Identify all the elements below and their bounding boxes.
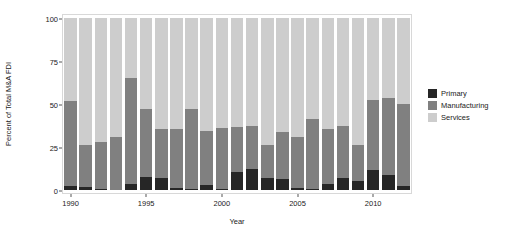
bar-1995 bbox=[140, 18, 153, 190]
bar-segment-primary bbox=[64, 186, 77, 190]
bar-segment-primary bbox=[140, 177, 153, 190]
bar-segment-services bbox=[125, 18, 138, 78]
bar-1992 bbox=[95, 18, 108, 190]
bar-segment-services bbox=[291, 18, 304, 137]
bar-segment-services bbox=[397, 18, 410, 104]
bar-segment-services bbox=[140, 18, 153, 109]
bar-segment-manufacturing bbox=[261, 145, 274, 178]
bar-1993 bbox=[110, 18, 123, 190]
bar-segment-services bbox=[306, 18, 319, 119]
x-tick-mark-1995 bbox=[146, 194, 147, 197]
bar-segment-manufacturing bbox=[155, 129, 168, 178]
bar-segment-manufacturing bbox=[276, 132, 289, 179]
bar-segment-manufacturing bbox=[397, 104, 410, 186]
legend-swatch-icon bbox=[428, 113, 437, 122]
bar-segment-primary bbox=[200, 185, 213, 190]
bar-segment-services bbox=[352, 18, 365, 145]
y-tick-mark-25 bbox=[59, 148, 62, 149]
y-tick-mark-50 bbox=[59, 105, 62, 106]
bar-segment-services bbox=[110, 18, 123, 137]
x-tick-label-1990: 1990 bbox=[62, 199, 79, 208]
bar-segment-services bbox=[337, 18, 350, 126]
bar-segment-manufacturing bbox=[140, 109, 153, 177]
bar-segment-services bbox=[200, 18, 213, 131]
bar-segment-primary bbox=[125, 184, 138, 190]
bar-segment-primary bbox=[246, 169, 259, 190]
x-tick-label-1995: 1995 bbox=[138, 199, 155, 208]
bar-2010 bbox=[367, 18, 380, 190]
bar-2007 bbox=[322, 18, 335, 190]
bar-2011 bbox=[382, 18, 395, 190]
legend-item-primary: Primary bbox=[428, 88, 489, 99]
bar-segment-services bbox=[231, 18, 244, 127]
bar-segment-primary bbox=[276, 179, 289, 190]
bar-segment-primary bbox=[382, 175, 395, 190]
bar-segment-services bbox=[246, 18, 259, 126]
chart-screenshot: 025507510019901995200020052010 Percent o… bbox=[0, 0, 507, 235]
x-tick-mark-2005 bbox=[297, 194, 298, 197]
bar-2002 bbox=[246, 18, 259, 190]
bar-segment-services bbox=[155, 18, 168, 129]
bar-1999 bbox=[200, 18, 213, 190]
bar-segment-primary bbox=[185, 189, 198, 190]
bar-2008 bbox=[337, 18, 350, 190]
y-tick-mark-0 bbox=[59, 191, 62, 192]
bar-segment-primary bbox=[231, 172, 244, 190]
bar-segment-primary bbox=[216, 189, 229, 190]
bar-1998 bbox=[185, 18, 198, 190]
bar-segment-manufacturing bbox=[125, 78, 138, 184]
bar-1990 bbox=[64, 18, 77, 190]
bar-segment-primary bbox=[367, 170, 380, 190]
bar-2009 bbox=[352, 18, 365, 190]
bar-segment-services bbox=[64, 18, 77, 101]
bar-segment-primary bbox=[291, 188, 304, 190]
y-tick-mark-100 bbox=[59, 19, 62, 20]
bar-segment-primary bbox=[170, 188, 183, 190]
legend-item-services: Services bbox=[428, 112, 489, 123]
bar-segment-manufacturing bbox=[306, 119, 319, 189]
bar-2003 bbox=[261, 18, 274, 190]
bar-segment-services bbox=[382, 18, 395, 98]
bar-segment-services bbox=[79, 18, 92, 145]
bar-segment-services bbox=[322, 18, 335, 129]
bar-segment-manufacturing bbox=[352, 145, 365, 180]
bar-segment-services bbox=[276, 18, 289, 132]
bar-2001 bbox=[231, 18, 244, 190]
bar-segment-services bbox=[170, 18, 183, 129]
bar-segment-services bbox=[261, 18, 274, 145]
bar-2005 bbox=[291, 18, 304, 190]
bar-segment-manufacturing bbox=[337, 126, 350, 178]
bar-segment-services bbox=[216, 18, 229, 128]
bar-segment-manufacturing bbox=[367, 100, 380, 171]
bar-segment-primary bbox=[397, 186, 410, 190]
chart-legend: PrimaryManufacturingServices bbox=[428, 88, 489, 123]
bar-segment-manufacturing bbox=[216, 128, 229, 189]
bar-segment-manufacturing bbox=[185, 109, 198, 189]
bar-segment-primary bbox=[306, 189, 319, 190]
bar-2012 bbox=[397, 18, 410, 190]
legend-swatch-icon bbox=[428, 101, 437, 110]
y-tick-mark-75 bbox=[59, 62, 62, 63]
bar-segment-manufacturing bbox=[79, 145, 92, 186]
legend-label: Primary bbox=[441, 89, 467, 98]
bar-segment-primary bbox=[337, 178, 350, 190]
bar-1997 bbox=[170, 18, 183, 190]
bar-segment-services bbox=[185, 18, 198, 109]
x-tick-mark-1990 bbox=[70, 194, 71, 197]
x-tick-label-2000: 2000 bbox=[214, 199, 231, 208]
bar-1994 bbox=[125, 18, 138, 190]
bar-segment-manufacturing bbox=[291, 137, 304, 189]
bar-segment-services bbox=[367, 18, 380, 100]
bar-segment-manufacturing bbox=[246, 126, 259, 169]
x-tick-label-2010: 2010 bbox=[365, 199, 382, 208]
bar-2004 bbox=[276, 18, 289, 190]
bar-segment-primary bbox=[352, 181, 365, 190]
legend-swatch-icon bbox=[428, 89, 437, 98]
x-tick-mark-2000 bbox=[221, 194, 222, 197]
bar-segment-manufacturing bbox=[110, 137, 123, 190]
bar-segment-manufacturing bbox=[382, 98, 395, 175]
bar-segment-primary bbox=[155, 178, 168, 190]
x-axis-title: Year bbox=[229, 217, 244, 226]
bar-segment-services bbox=[95, 18, 108, 142]
bar-1996 bbox=[155, 18, 168, 190]
